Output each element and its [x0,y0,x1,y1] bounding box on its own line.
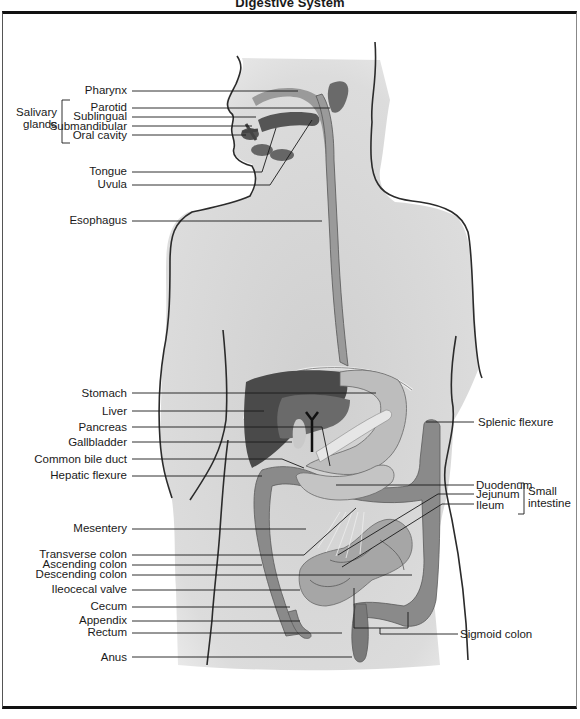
label-salivary-glands-line2: glands [0,118,57,130]
label-pharynx: Pharynx [0,84,127,96]
label-sigmoid-colon: Sigmoid colon [460,628,532,640]
label-stomach: Stomach [0,387,127,399]
label-hepatic-flexure: Hepatic flexure [0,469,127,481]
label-ileum: Ileum [476,499,504,511]
label-pancreas: Pancreas [0,421,127,433]
label-common-bile-duct: Common bile duct [0,453,127,465]
label-small-intestine-line1: Small [528,485,557,497]
label-gallbladder: Gallbladder [0,436,127,448]
label-appendix: Appendix [0,614,127,626]
label-salivary-glands-line1: Salivary [0,106,57,118]
label-anus: Anus [0,651,127,663]
label-tongue: Tongue [0,165,127,177]
label-small-intestine-line2: intestine [528,497,571,509]
label-descending-colon: Descending colon [0,568,127,580]
label-esophagus: Esophagus [0,214,127,226]
label-oral-cavity: Oral cavity [0,129,127,141]
label-uvula: Uvula [0,178,127,190]
label-cecum: Cecum [0,600,127,612]
label-ileocecal-valve: Ileocecal valve [0,583,127,595]
label-splenic-flexure: Splenic flexure [478,416,553,428]
label-mesentery: Mesentery [0,522,127,534]
label-rectum: Rectum [0,626,127,638]
label-liver: Liver [0,405,127,417]
